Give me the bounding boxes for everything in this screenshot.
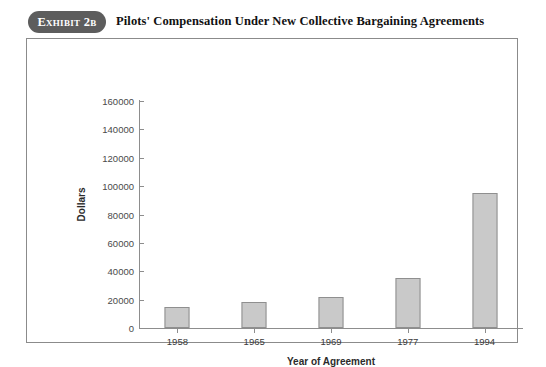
bar-1969 xyxy=(319,297,344,328)
exhibit-header: Exhibit 2b Pilots' Compensation Under Ne… xyxy=(0,0,546,38)
y-axis-tick-label: 40000 xyxy=(82,266,134,277)
x-axis-tick-label: 1977 xyxy=(368,336,448,347)
y-axis-title: Dollars xyxy=(76,145,87,265)
y-axis-tick-label: 100000 xyxy=(82,181,134,192)
bar-group xyxy=(293,101,369,328)
x-axis-tick-label: 1965 xyxy=(214,336,294,347)
exhibit-badge: Exhibit 2b xyxy=(28,11,106,33)
bar-1977 xyxy=(395,278,420,328)
x-axis-tick-label: 1958 xyxy=(137,336,217,347)
x-axis-tick-mark xyxy=(331,328,332,333)
x-axis-tick-mark xyxy=(254,328,255,333)
y-axis-tick-label: 140000 xyxy=(82,124,134,135)
y-axis-tick-label: 160000 xyxy=(82,96,134,107)
x-axis-title: Year of Agreement xyxy=(139,356,523,367)
bar-group xyxy=(370,101,446,328)
x-axis-tick-label: 1994 xyxy=(445,336,525,347)
exhibit-badge-label: Exhibit 2b xyxy=(37,15,96,30)
x-axis-tick-mark xyxy=(485,328,486,333)
bar-1958 xyxy=(165,307,190,328)
bar-group xyxy=(139,101,215,328)
bar-group xyxy=(447,101,523,328)
y-axis-tick-label: 0 xyxy=(82,323,134,334)
x-axis-tick-label: 1969 xyxy=(291,336,371,347)
x-axis-tick-mark xyxy=(177,328,178,333)
bar-1994 xyxy=(472,193,497,328)
bar-1965 xyxy=(242,302,267,328)
exhibit-title: Pilots' Compensation Under New Collectiv… xyxy=(116,14,484,29)
y-axis-tick-mark xyxy=(139,328,144,329)
x-axis-tick-mark xyxy=(408,328,409,333)
y-axis-tick-label: 80000 xyxy=(82,209,134,220)
y-axis-tick-label: 120000 xyxy=(82,152,134,163)
y-axis-tick-label: 20000 xyxy=(82,294,134,305)
chart-frame: 0200004000060000800001000001200001400001… xyxy=(26,38,518,343)
bar-group xyxy=(216,101,292,328)
y-axis-tick-label: 60000 xyxy=(82,237,134,248)
